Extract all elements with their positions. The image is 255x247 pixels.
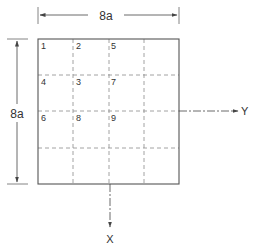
y-axis: Y xyxy=(179,105,249,117)
x-axis: X xyxy=(106,184,114,245)
cell-label: 9 xyxy=(111,113,116,123)
height-dimension-label: 8a xyxy=(10,107,24,121)
cell-label: 3 xyxy=(76,77,81,87)
plate-diagram: 8a 8a 1 2 5 4 3 7 6 8 9 Y X xyxy=(0,0,255,247)
cell-label: 5 xyxy=(111,41,116,51)
cell-label: 7 xyxy=(111,77,116,87)
plate-outline xyxy=(38,39,179,184)
cell-label: 1 xyxy=(41,41,46,51)
x-axis-label: X xyxy=(106,233,114,245)
cell-label: 6 xyxy=(41,113,46,123)
width-dimension-label: 8a xyxy=(99,9,113,23)
y-axis-label: Y xyxy=(241,105,249,117)
cell-label: 8 xyxy=(76,113,81,123)
width-dimension: 8a xyxy=(38,7,179,24)
grid-lines xyxy=(38,39,179,184)
cell-label: 4 xyxy=(41,77,46,87)
height-dimension: 8a xyxy=(4,39,30,184)
cell-label: 2 xyxy=(76,41,81,51)
